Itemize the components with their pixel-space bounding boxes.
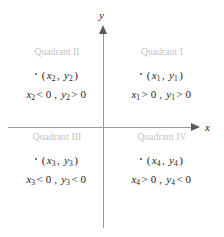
open-paren: ( (42, 154, 46, 166)
sign-separator: , (159, 173, 162, 185)
sign-y-var: y4 (166, 173, 175, 185)
sign-x-value: 0 (46, 173, 52, 185)
quadrant-4-title: Quadrant IV (112, 131, 212, 143)
point-comma: , (57, 69, 60, 81)
point-dot-icon (35, 73, 38, 76)
sign-x-value: 0 (151, 173, 157, 185)
sign-y-var: y1 (166, 88, 175, 100)
x-axis-line (8, 127, 193, 128)
y-axis-arrow-icon (99, 25, 107, 34)
point-y-var: y4 (169, 154, 178, 166)
sign-y-operator: < (176, 173, 182, 185)
sign-x-var: x2 (26, 88, 35, 100)
sign-y-operator: > (176, 88, 182, 100)
y-axis-label: y (99, 9, 104, 21)
sign-y-value: 0 (186, 88, 192, 100)
quadrant-2-point: (x2, y2) (7, 68, 107, 86)
point-comma: , (162, 69, 165, 81)
point-x-var: x4 (152, 154, 161, 166)
sign-x-var: x4 (131, 173, 140, 185)
quadrant-3-signs: x3<0, y3<0 (7, 172, 107, 190)
quadrant-4-group: Quadrant IV (x4, y4) x4>0, y4<0 (112, 131, 212, 190)
point-dot-icon (140, 158, 143, 161)
quadrant-3-group: Quadrant III (x3, y3) x3<0, y3<0 (7, 131, 107, 190)
point-y-var: y3 (64, 154, 73, 166)
quadrant-1-signs: x1>0, y1>0 (112, 87, 212, 105)
sign-y-operator: > (71, 88, 77, 100)
close-paren: ) (179, 69, 183, 81)
point-dot-icon (140, 73, 143, 76)
sign-y-operator: < (71, 173, 77, 185)
quadrant-1-group: Quadrant I (x1, y1) x1>0, y1>0 (112, 46, 212, 105)
point-dot-icon (35, 158, 38, 161)
quadrant-3-point: (x3, y3) (7, 153, 107, 171)
point-x-var: x3 (47, 154, 56, 166)
x-axis-arrow-icon (191, 123, 200, 131)
coordinate-plane-figure: x y Quadrant I (x1, y1) x1>0, y1>0 Quadr… (0, 0, 224, 237)
sign-x-operator: < (37, 88, 43, 100)
point-y-var: y1 (169, 69, 178, 81)
sign-x-var: x1 (131, 88, 140, 100)
quadrant-2-signs: x2<0, y2>0 (7, 87, 107, 105)
quadrant-3-title: Quadrant III (7, 131, 107, 143)
sign-x-var: x3 (26, 173, 35, 185)
quadrant-2-title: Quadrant II (7, 46, 107, 58)
point-x-var: x1 (152, 69, 161, 81)
quadrant-4-point: (x4, y4) (112, 153, 212, 171)
quadrant-1-title: Quadrant I (112, 46, 212, 58)
sign-x-value: 0 (46, 88, 52, 100)
sign-y-var: y2 (61, 88, 70, 100)
quadrant-4-signs: x4>0, y4<0 (112, 172, 212, 190)
open-paren: ( (147, 69, 151, 81)
sign-y-value: 0 (81, 173, 87, 185)
point-x-var: x2 (47, 69, 56, 81)
sign-y-value: 0 (81, 88, 87, 100)
open-paren: ( (42, 69, 46, 81)
close-paren: ) (179, 154, 183, 166)
sign-y-value: 0 (186, 173, 192, 185)
sign-y-var: y3 (61, 173, 70, 185)
close-paren: ) (74, 154, 78, 166)
sign-separator: , (54, 173, 57, 185)
sign-separator: , (159, 88, 162, 100)
quadrant-2-group: Quadrant II (x2, y2) x2<0, y2>0 (7, 46, 107, 105)
point-comma: , (162, 154, 165, 166)
close-paren: ) (74, 69, 78, 81)
sign-x-operator: > (142, 88, 148, 100)
sign-x-operator: < (37, 173, 43, 185)
sign-x-operator: > (142, 173, 148, 185)
point-y-var: y2 (64, 69, 73, 81)
quadrant-1-point: (x1, y1) (112, 68, 212, 86)
point-comma: , (57, 154, 60, 166)
open-paren: ( (147, 154, 151, 166)
sign-x-value: 0 (151, 88, 157, 100)
sign-separator: , (54, 88, 57, 100)
